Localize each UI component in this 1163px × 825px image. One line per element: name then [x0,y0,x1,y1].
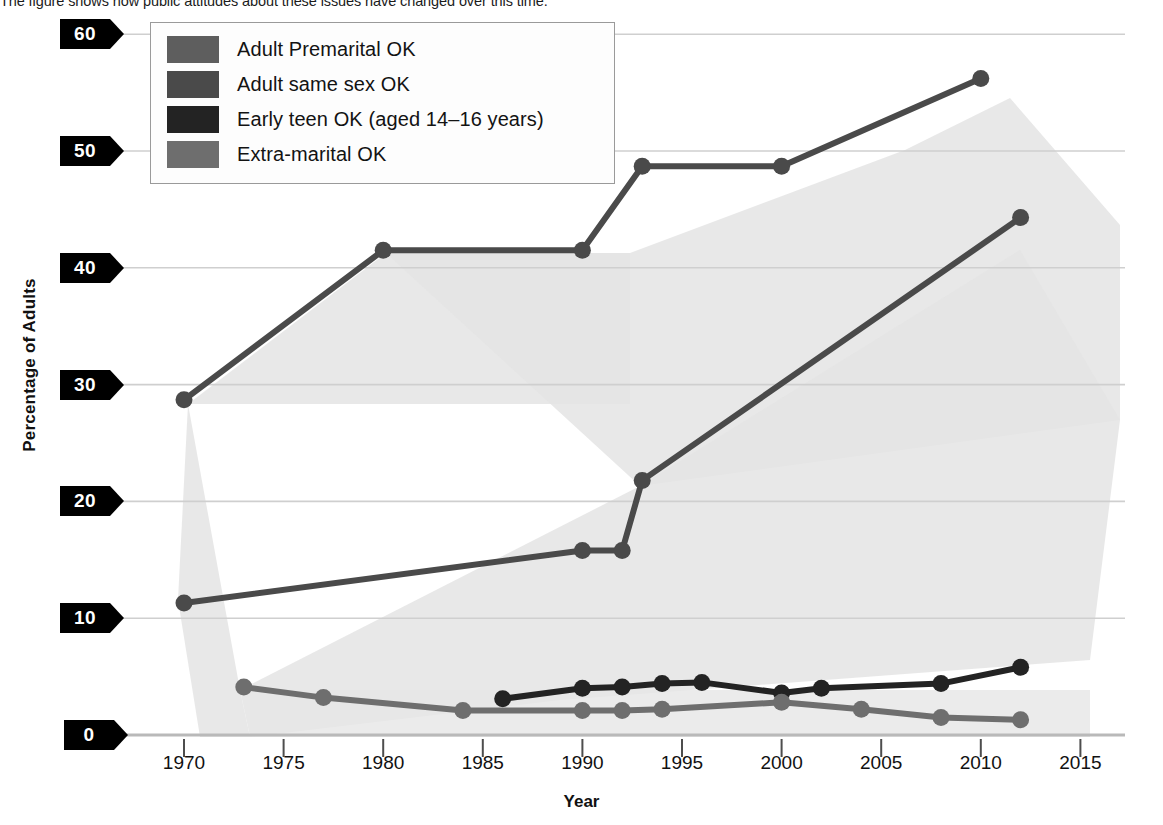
y-tick-label: 0 [64,720,114,750]
chart-legend: Adult Premarital OK Adult same sex OK Ea… [150,22,615,184]
x-axis-tick-2005: 2005 [846,752,916,774]
y-tick-arrow-icon [110,136,124,166]
y-tick-label: 20 [60,486,110,516]
y-tick-arrow-icon [110,603,124,633]
y-tick-label: 60 [60,19,110,49]
y-axis-tick-40: 40 [60,253,124,283]
legend-item[interactable]: Adult same sex OK [167,67,602,102]
x-axis-tick-1990: 1990 [547,752,617,774]
y-axis-tick-10: 10 [60,603,124,633]
legend-swatch-icon [167,141,219,168]
x-axis-tick-1970: 1970 [149,752,219,774]
y-axis-tick-0: 0 [64,720,128,750]
y-axis-tick-20: 20 [60,486,124,516]
y-tick-arrow-icon [110,486,124,516]
x-axis-tick-1975: 1975 [249,752,319,774]
x-axis-tick-2010: 2010 [946,752,1016,774]
legend-label: Adult Premarital OK [237,38,416,61]
legend-swatch-icon [167,106,219,133]
x-axis-tick-1985: 1985 [448,752,518,774]
y-axis-title: Percentage of Adults [20,245,40,485]
legend-label: Early teen OK (aged 14–16 years) [237,108,544,131]
y-axis-tick-50: 50 [60,136,124,166]
y-tick-label: 10 [60,603,110,633]
legend-label: Extra-marital OK [237,143,386,166]
y-tick-arrow-icon [110,19,124,49]
x-axis-tick-2000: 2000 [747,752,817,774]
y-axis-tick-30: 30 [60,370,124,400]
y-tick-arrow-icon [110,370,124,400]
y-tick-arrow-icon [110,253,124,283]
legend-item[interactable]: Extra-marital OK [167,137,602,172]
y-tick-label: 50 [60,136,110,166]
x-axis-tick-1995: 1995 [647,752,717,774]
legend-label: Adult same sex OK [237,73,410,96]
legend-swatch-icon [167,36,219,63]
figure-container: The figure shows how public attitudes ab… [0,0,1163,825]
y-tick-label: 30 [60,370,110,400]
legend-item[interactable]: Early teen OK (aged 14–16 years) [167,102,602,137]
chart-shadow-layer [178,98,1120,737]
y-tick-label: 40 [60,253,110,283]
y-tick-arrow-icon [114,720,128,750]
x-axis-title: Year [0,792,1163,812]
legend-swatch-icon [167,71,219,98]
x-axis-tick-2015: 2015 [1045,752,1115,774]
legend-item[interactable]: Adult Premarital OK [167,32,602,67]
x-axis-tick-1980: 1980 [348,752,418,774]
y-axis-tick-60: 60 [60,19,124,49]
